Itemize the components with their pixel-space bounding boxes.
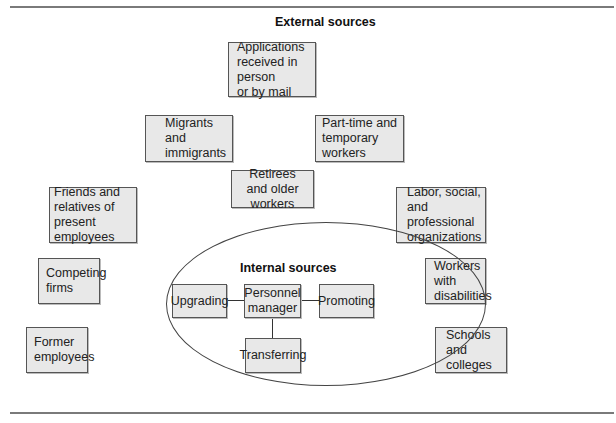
box-promoting: Promoting (319, 284, 374, 318)
box-transferring-label: Transferring (240, 348, 307, 363)
box-personnel-manager: Personnel manager (244, 284, 301, 318)
box-former-label: Former employees (34, 335, 94, 365)
box-part-time: Part-time and temporary workers (315, 115, 404, 162)
box-retirees-label: Retirees and older workers (232, 167, 313, 212)
connector-upgrading (226, 300, 244, 301)
box-applications: Applications received in person or by ma… (228, 42, 316, 97)
box-retirees: Retirees and older workers (231, 170, 314, 208)
box-labor-label: Labor, social, and professional organiza… (407, 185, 485, 245)
box-friends: Friends and relatives of present employe… (49, 187, 137, 243)
box-part-time-label: Part-time and temporary workers (322, 116, 403, 161)
internal-sources-heading: Internal sources (240, 261, 337, 275)
box-upgrading: Upgrading (172, 284, 227, 318)
box-upgrading-label: Upgrading (171, 294, 229, 309)
external-sources-heading: External sources (275, 15, 376, 29)
box-migrants-label: Migrants and immigrants (165, 116, 232, 161)
box-migrants: Migrants and immigrants (145, 115, 233, 162)
connector-promoting (300, 300, 319, 301)
box-competing-label: Competing firms (46, 266, 106, 296)
box-applications-label: Applications received in person or by ma… (237, 40, 315, 100)
box-competing: Competing firms (38, 258, 100, 304)
top-rule (10, 6, 614, 8)
bottom-rule (10, 412, 614, 414)
box-personnel-manager-label: Personnel manager (244, 286, 300, 316)
connector-transferring (272, 318, 273, 338)
box-former: Former employees (26, 327, 88, 373)
box-friends-label: Friends and relatives of present employe… (54, 185, 136, 245)
box-transferring: Transferring (245, 338, 301, 373)
box-promoting-label: Promoting (318, 294, 375, 309)
